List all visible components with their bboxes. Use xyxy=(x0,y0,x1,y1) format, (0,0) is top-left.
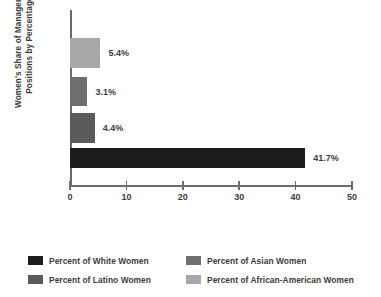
legend-item: Percent of White Women xyxy=(28,256,186,266)
x-axis-tick-label: 30 xyxy=(234,192,244,202)
legend-item: Percent of African-American Women xyxy=(186,275,368,285)
x-axis-tick-label: 0 xyxy=(67,192,72,202)
legend-label: Percent of Asian Women xyxy=(207,256,306,266)
bar-value-label: 41.7% xyxy=(313,153,339,163)
bar-value-label: 4.4% xyxy=(103,123,124,133)
legend-label: Percent of African-American Women xyxy=(207,275,354,285)
legend: Percent of White WomenPercent of Asian W… xyxy=(28,251,368,289)
x-axis-line xyxy=(70,185,352,187)
bar xyxy=(70,113,95,143)
legend-swatch xyxy=(28,256,43,265)
legend-swatch xyxy=(28,275,43,284)
legend-swatch xyxy=(186,256,201,265)
bar xyxy=(70,148,305,168)
y-axis-title: Women's Share of Management Positions by… xyxy=(7,0,41,125)
bar-value-label: 5.4% xyxy=(108,48,129,58)
legend-label: Percent of Latino Women xyxy=(49,275,151,285)
bar-value-label: 3.1% xyxy=(95,87,116,97)
bar-chart: Women's Share of Management Positions by… xyxy=(0,0,381,297)
x-axis-tick-label: 10 xyxy=(121,192,131,202)
y-axis-title-text: Women's Share of Management Positions by… xyxy=(13,0,35,108)
bar xyxy=(70,38,100,68)
x-axis-tick-label: 40 xyxy=(291,192,301,202)
legend-label: Percent of White Women xyxy=(49,256,149,266)
legend-item: Percent of Latino Women xyxy=(28,275,186,285)
legend-swatch xyxy=(186,275,201,284)
bar xyxy=(70,77,87,106)
plot-area: 5.4%3.1%4.4%41.7% xyxy=(70,10,352,185)
legend-item: Percent of Asian Women xyxy=(186,256,368,266)
x-axis-tick-label: 50 xyxy=(347,192,357,202)
x-axis-tick-label: 20 xyxy=(178,192,188,202)
